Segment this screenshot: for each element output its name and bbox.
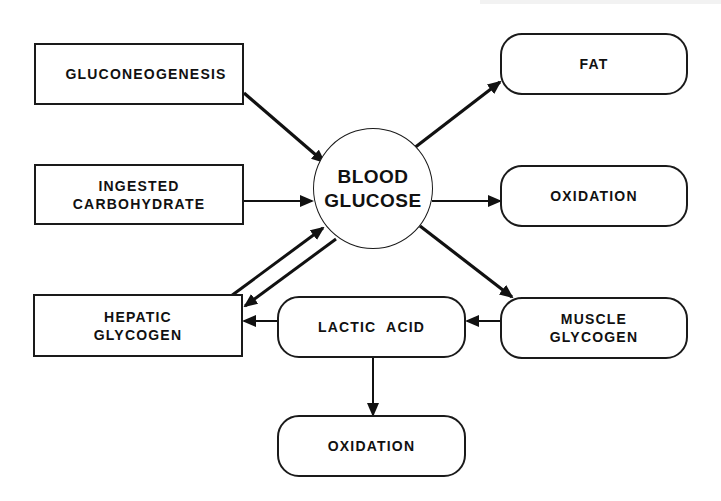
node-label: MUSCLE GLYCOGEN xyxy=(550,310,638,346)
node-oxidation-right: OXIDATION xyxy=(500,165,688,227)
node-label: GLUCONEOGENESIS xyxy=(51,65,226,83)
node-oxidation-bottom: OXIDATION xyxy=(277,415,466,477)
node-lactic-acid: LACTIC ACID xyxy=(277,296,466,358)
node-label: INGESTED CARBOHYDRATE xyxy=(73,177,205,213)
node-blood-glucose: BLOOD GLUCOSE xyxy=(313,128,433,249)
node-label: OXIDATION xyxy=(328,437,416,455)
node-gluconeogenesis: GLUCONEOGENESIS xyxy=(34,43,244,105)
node-label: FAT xyxy=(579,55,608,73)
node-hepatic-glycogen: HEPATIC GLYCOGEN xyxy=(33,294,243,357)
node-label: BLOOD GLUCOSE xyxy=(324,165,421,213)
node-label: HEPATIC GLYCOGEN xyxy=(94,308,182,344)
node-muscle-glycogen: MUSCLE GLYCOGEN xyxy=(500,297,688,359)
node-label: OXIDATION xyxy=(550,187,638,205)
node-fat: FAT xyxy=(500,33,688,95)
arrow-hepatic-glycogen-to-blood-glucose xyxy=(231,228,323,296)
node-label: LACTIC ACID xyxy=(318,318,425,336)
node-ingested-carbohydrate: INGESTED CARBOHYDRATE xyxy=(34,164,244,225)
arrow-blood-glucose-to-fat xyxy=(409,82,500,152)
arrow-gluconeogenesis-to-blood-glucose xyxy=(244,93,324,162)
arrow-blood-glucose-to-muscle-glycogen xyxy=(420,226,512,297)
